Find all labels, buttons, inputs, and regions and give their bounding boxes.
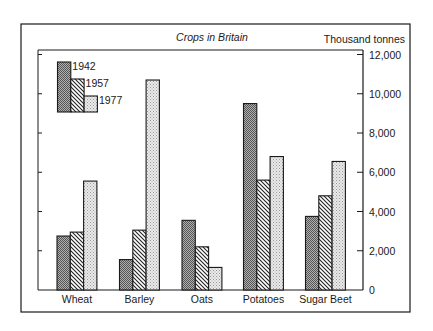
bar-1977 bbox=[270, 157, 283, 290]
bar-1977 bbox=[332, 161, 345, 290]
y-tick-label: 8,000 bbox=[369, 127, 395, 139]
legend-label: 1942 bbox=[72, 60, 96, 72]
bar-group-wheat bbox=[57, 181, 97, 290]
bar-1957 bbox=[257, 180, 270, 290]
bar-group-sugar-beet bbox=[306, 161, 346, 290]
legend: 194219571977 bbox=[58, 60, 123, 112]
bar-group-oats bbox=[182, 220, 222, 290]
legend-swatch-1942 bbox=[58, 62, 71, 112]
y-tick-label: 4,000 bbox=[369, 206, 395, 218]
y-tick-label: 6,000 bbox=[369, 166, 395, 178]
bar-1957 bbox=[319, 196, 332, 290]
y-axis-unit-label: Thousand tonnes bbox=[324, 33, 405, 45]
bar-1977 bbox=[209, 267, 222, 290]
x-category-label: Potatoes bbox=[243, 293, 284, 305]
legend-label: 1957 bbox=[86, 77, 110, 89]
bar-1957 bbox=[195, 247, 208, 290]
bar-1942 bbox=[244, 104, 257, 290]
y-tick-label: 12,000 bbox=[369, 49, 401, 61]
bar-group-potatoes bbox=[244, 104, 284, 290]
bar-1977 bbox=[84, 181, 97, 290]
x-axis-labels: WheatBarleyOatsPotatoesSugar Beet bbox=[62, 293, 352, 305]
x-category-label: Wheat bbox=[62, 293, 92, 305]
y-tick-label: 10,000 bbox=[369, 88, 401, 100]
bar-groups bbox=[57, 80, 345, 290]
bar-1942 bbox=[57, 236, 70, 290]
x-category-label: Oats bbox=[191, 293, 213, 305]
bar-1957 bbox=[70, 232, 83, 290]
legend-label: 1977 bbox=[99, 94, 123, 106]
chart-title: Crops in Britain bbox=[176, 31, 248, 43]
y-tick-label: 2,000 bbox=[369, 245, 395, 257]
y-tick-label: 0 bbox=[369, 284, 375, 296]
bar-group-barley bbox=[120, 80, 160, 290]
bar-1942 bbox=[120, 260, 133, 290]
legend-swatch-1977 bbox=[84, 96, 97, 112]
x-category-label: Barley bbox=[125, 293, 156, 305]
x-category-label: Sugar Beet bbox=[299, 293, 352, 305]
legend-swatch-1957 bbox=[71, 79, 84, 112]
bar-1977 bbox=[146, 80, 159, 290]
bar-1957 bbox=[133, 230, 146, 290]
bar-1942 bbox=[306, 216, 319, 290]
bar-1942 bbox=[182, 220, 195, 290]
crops-bar-chart: Crops in Britain Thousand tonnes 02,0004… bbox=[0, 0, 433, 331]
